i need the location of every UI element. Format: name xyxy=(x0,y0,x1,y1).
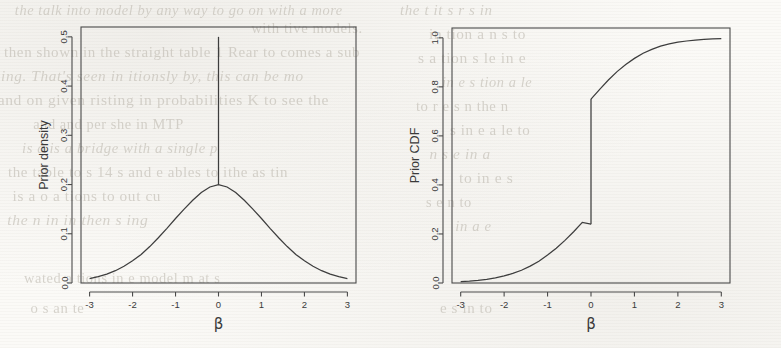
x-axis-tick-label: -3 xyxy=(85,299,93,310)
data-curve xyxy=(591,39,721,100)
y-axis-tick-label: 0.5 xyxy=(59,30,70,43)
y-axis-tick-label: 0.4 xyxy=(430,178,441,191)
x-axis-tick-label: 1 xyxy=(632,299,637,310)
chart-panel-prior-density: -3-2-10123β0.00.10.20.30.40.5Prior densi… xyxy=(0,0,390,348)
x-axis-tick-label: 0 xyxy=(588,299,593,310)
y-axis-tick-label: 0.2 xyxy=(59,178,70,191)
x-axis-tick-label: -2 xyxy=(128,299,136,310)
y-axis-tick-label: 0.0 xyxy=(59,276,70,289)
x-axis-title: β xyxy=(214,315,224,333)
x-axis-tick-label: 1 xyxy=(259,299,264,310)
x-axis-tick-label: 2 xyxy=(302,299,307,310)
y-axis-tick-label: 0.4 xyxy=(59,79,70,92)
y-axis-title: Prior CDF xyxy=(408,127,422,183)
x-axis-tick-label: 3 xyxy=(719,299,724,310)
x-axis-title: β xyxy=(586,315,596,333)
y-axis-tick-label: 0.1 xyxy=(59,227,70,240)
y-axis-tick-label: 0.6 xyxy=(430,129,441,142)
x-axis-tick-label: -3 xyxy=(456,299,464,310)
y-axis-tick-label: 0.3 xyxy=(59,129,70,142)
x-axis-tick-label: -1 xyxy=(171,299,179,310)
y-axis-title: Prior density xyxy=(37,120,51,190)
y-axis-tick-label: 0.2 xyxy=(430,227,441,240)
prior-density-plot: -3-2-10123β0.00.10.20.30.40.5Prior densi… xyxy=(0,0,390,348)
y-axis-tick-label: 0.0 xyxy=(430,276,441,289)
prior-cdf-plot: -3-2-10123β0.00.20.40.60.81.0Prior CDF xyxy=(390,0,781,348)
chart-panel-prior-cdf: -3-2-10123β0.00.20.40.60.81.0Prior CDF xyxy=(390,0,781,348)
data-curve xyxy=(461,222,591,281)
x-axis-tick-label: 3 xyxy=(345,299,350,310)
x-axis-tick-label: -2 xyxy=(500,299,508,310)
x-axis-tick-label: 0 xyxy=(216,299,221,310)
y-axis-tick-label: 0.8 xyxy=(430,80,441,93)
x-axis-tick-label: -1 xyxy=(543,299,551,310)
x-axis-tick-label: 2 xyxy=(675,299,680,310)
y-axis-tick-label: 1.0 xyxy=(430,31,441,44)
data-curve xyxy=(90,185,348,279)
